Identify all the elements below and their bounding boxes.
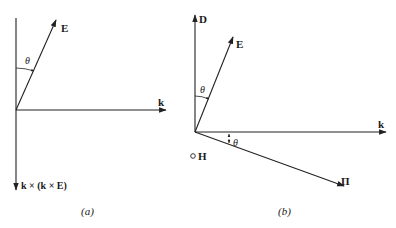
D-label: D	[199, 13, 207, 25]
theta-arc-DE	[195, 96, 209, 99]
theta-arc	[16, 68, 34, 71]
k-label: k	[158, 96, 165, 108]
E-label-b: E	[236, 38, 243, 50]
kxkxE-label: k × (k × E)	[21, 180, 67, 192]
panel-b: D E k Π H θ θ (b)	[191, 13, 386, 218]
E-vector	[16, 20, 56, 110]
theta-label-DE: θ	[200, 84, 205, 95]
panel-a: E k θ k × (k × E) (a)	[16, 18, 166, 218]
caption-a: (a)	[81, 205, 94, 218]
E-label: E	[61, 22, 68, 34]
H-label: H	[198, 150, 207, 162]
theta-label-kPi: θ	[233, 137, 238, 148]
caption-b: (b)	[278, 205, 291, 218]
Pi-label: Π	[341, 175, 350, 187]
theta-label: θ	[25, 55, 30, 66]
k-label-b: k	[378, 118, 385, 130]
vector-diagram: E k θ k × (k × E) (a) D E k Π H θ θ (b)	[0, 0, 396, 228]
Pi-vector	[195, 132, 344, 186]
H-out-of-plane-icon	[191, 154, 196, 159]
